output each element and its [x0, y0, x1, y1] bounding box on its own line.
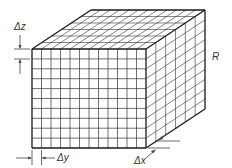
dy-annotation: Δy: [16, 150, 70, 165]
dx-label: Δx: [133, 155, 147, 166]
dz-annotation: Δz: [13, 21, 30, 74]
front-face: [32, 49, 146, 148]
top-face: [42, 10, 196, 49]
side-face: [146, 17, 205, 142]
dz-label: Δz: [13, 21, 26, 32]
grid-block-diagram: Δz Δy Δx R: [0, 0, 232, 168]
dy-label: Δy: [56, 152, 70, 163]
region-label: R: [212, 51, 219, 62]
